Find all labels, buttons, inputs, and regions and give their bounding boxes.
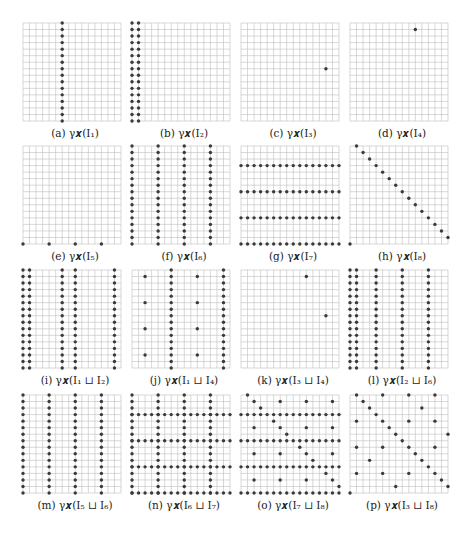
grid-point xyxy=(156,393,159,396)
grid-point xyxy=(246,216,249,219)
grid-plot xyxy=(128,391,234,497)
grid-point xyxy=(61,321,64,324)
grid-point xyxy=(183,170,186,173)
grid-point xyxy=(348,334,351,337)
grid-point xyxy=(209,413,212,416)
grid-point xyxy=(100,406,103,409)
panel-k: (k) γ𝒙(I₃ ⊔ I₄) xyxy=(237,266,349,398)
grid-point xyxy=(61,67,64,70)
grid-point xyxy=(222,353,225,356)
grid-point xyxy=(130,491,133,494)
grid-point xyxy=(259,406,262,409)
grid-point xyxy=(222,465,225,468)
grid-point xyxy=(311,459,314,462)
grid-point xyxy=(130,439,133,442)
grid-point xyxy=(407,472,410,475)
grid-point xyxy=(130,93,133,96)
panel-caption: (d) γ𝒙(I₄) xyxy=(346,127,458,140)
grid-point xyxy=(298,242,301,245)
grid-point xyxy=(324,164,327,167)
grid-point xyxy=(61,54,64,57)
grid-point xyxy=(355,472,358,475)
grid-point xyxy=(183,400,186,403)
grid-point xyxy=(427,353,430,356)
grid-point xyxy=(156,184,159,187)
grid-point xyxy=(100,472,103,475)
grid-point xyxy=(28,275,31,278)
grid-point xyxy=(209,144,212,147)
grid-point xyxy=(209,170,212,173)
panel-e: (e) γ𝒙(I₅) xyxy=(19,142,131,274)
grid-point xyxy=(427,301,430,304)
grid-point xyxy=(228,491,231,494)
grid-point xyxy=(47,433,50,436)
grid-point xyxy=(446,433,449,436)
grid-point xyxy=(285,190,288,193)
grid-point xyxy=(74,472,77,475)
grid-point xyxy=(183,406,186,409)
grid-point xyxy=(61,314,64,317)
grid-point xyxy=(311,439,314,442)
grid-point xyxy=(74,327,77,330)
grid-point xyxy=(61,360,64,363)
panel-h: (h) γ𝒙(I₈) xyxy=(346,142,458,274)
grid-point xyxy=(401,439,404,442)
grid-point xyxy=(156,210,159,213)
grid-point xyxy=(337,242,340,245)
panel-j: (j) γ𝒙(I₁ ⊔ I₄) xyxy=(128,266,240,398)
grid-point xyxy=(209,426,212,429)
panel-caption: (b) γ𝒙(I₂) xyxy=(128,127,240,140)
grid-point xyxy=(47,491,50,494)
grid-point xyxy=(209,491,212,494)
panel-caption: (h) γ𝒙(I₈) xyxy=(346,250,458,263)
grid-point xyxy=(74,426,77,429)
grid-point xyxy=(222,275,225,278)
grid-point xyxy=(272,216,275,219)
grid-point xyxy=(381,419,384,422)
grid-point xyxy=(401,288,404,291)
grid-point xyxy=(348,353,351,356)
grid-point xyxy=(388,426,391,429)
grid-point xyxy=(130,190,133,193)
grid-point xyxy=(150,465,153,468)
grid-point xyxy=(209,419,212,422)
grid-point xyxy=(427,281,430,284)
grid-point xyxy=(21,419,24,422)
grid-point xyxy=(196,327,199,330)
grid-point xyxy=(331,452,334,455)
grid-plot xyxy=(346,391,452,497)
grid-point xyxy=(130,413,133,416)
grid-point xyxy=(337,413,340,416)
grid-point xyxy=(239,242,242,245)
grid-point xyxy=(156,478,159,481)
grid-point xyxy=(348,281,351,284)
grid-point xyxy=(156,223,159,226)
grid-point xyxy=(279,439,282,442)
grid-point xyxy=(156,465,159,468)
grid-point xyxy=(305,190,308,193)
grid-point xyxy=(427,294,430,297)
grid-point xyxy=(374,288,377,291)
grid-point xyxy=(305,478,308,481)
grid-point xyxy=(401,321,404,324)
grid-point xyxy=(433,393,436,396)
grid-point xyxy=(74,485,77,488)
grid-point xyxy=(137,54,140,57)
grid-point xyxy=(137,119,140,122)
grid-point xyxy=(189,491,192,494)
grid-point xyxy=(156,190,159,193)
grid-point xyxy=(285,465,288,468)
grid-point xyxy=(156,459,159,462)
grid-point xyxy=(222,281,225,284)
grid-point xyxy=(61,281,64,284)
grid-point xyxy=(183,197,186,200)
grid-point xyxy=(305,413,308,416)
grid-point xyxy=(74,491,77,494)
grid-point xyxy=(130,223,133,226)
grid-point xyxy=(143,491,146,494)
grid-point xyxy=(74,478,77,481)
grid-point xyxy=(374,347,377,350)
grid-point xyxy=(355,144,358,147)
grid-point xyxy=(100,452,103,455)
grid-point xyxy=(21,360,24,363)
